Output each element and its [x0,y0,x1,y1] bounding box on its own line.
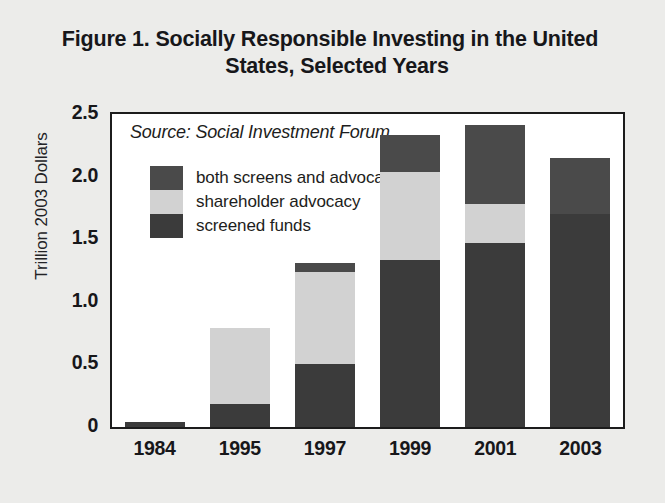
plot-frame: Source: Social Investment Forum both scr… [110,112,625,429]
bar-segment [125,422,185,427]
bar-segment [465,125,525,204]
bar-group [380,114,440,427]
y-axis-tick-label: 2.5 [52,101,98,124]
y-axis-tick-label: 1.0 [52,289,98,312]
bar-segment [380,172,440,261]
bar-segment [295,263,355,272]
bar-segment [550,214,610,427]
y-axis-tick-group: 00.51.01.52.02.5 [42,0,98,503]
bar-segment [465,243,525,427]
bar-segment [465,204,525,243]
figure-title-line-1: Figure 1. Socially Responsible Investing… [30,26,630,53]
bar-segment [380,260,440,427]
figure-container: Figure 1. Socially Responsible Investing… [0,0,665,503]
bar-group [125,114,185,427]
plot-area [112,114,623,427]
figure-title-line-2: States, Selected Years [30,53,630,80]
bar-group [210,114,270,427]
bar-segment [295,364,355,427]
y-axis-tick-label: 0.5 [52,351,98,374]
bar-segment [380,135,440,171]
bar-group [295,114,355,427]
bar-group [465,114,525,427]
y-axis-tick-label: 0 [52,414,98,437]
bar-segment [295,272,355,365]
y-axis-tick-label: 1.5 [52,226,98,249]
bar-group [550,114,610,427]
figure-title: Figure 1. Socially Responsible Investing… [30,26,630,80]
bar-segment [210,404,270,427]
y-axis-tick-label: 2.0 [52,164,98,187]
bar-segment [550,158,610,214]
bar-segment [210,328,270,404]
x-axis-tick-label: 2003 [530,437,630,460]
